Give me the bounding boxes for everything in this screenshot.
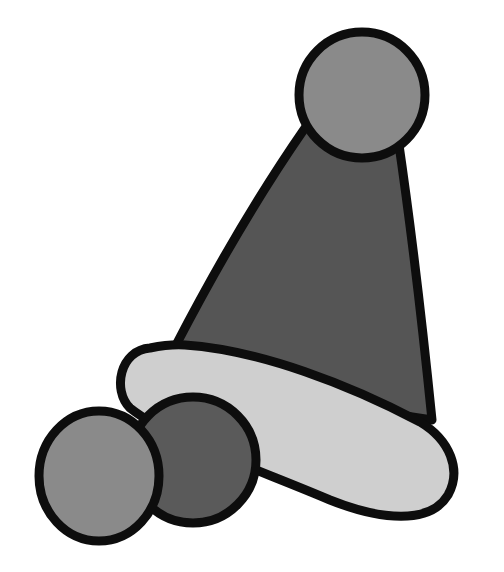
hat-drawing bbox=[0, 0, 504, 572]
front-pompom-left bbox=[39, 411, 159, 541]
top-pompom bbox=[299, 32, 425, 158]
hat-illustration bbox=[0, 0, 504, 572]
